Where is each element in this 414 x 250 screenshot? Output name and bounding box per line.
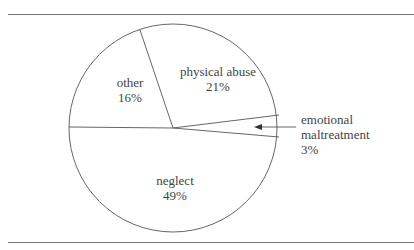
- callout-arrowhead-icon: [254, 124, 262, 130]
- label-other: other 16%: [100, 75, 160, 105]
- slice-boundary-physical-emotional: [173, 115, 279, 128]
- slice-boundary-emotional-neglect: [173, 128, 279, 137]
- label-emotional-maltreatment: emotional maltreatment 3%: [301, 112, 411, 157]
- label-physical-abuse: physical abuse 21%: [168, 64, 268, 94]
- slice-boundary-neglect-other: [69, 127, 173, 128]
- label-neglect: neglect 49%: [150, 173, 200, 203]
